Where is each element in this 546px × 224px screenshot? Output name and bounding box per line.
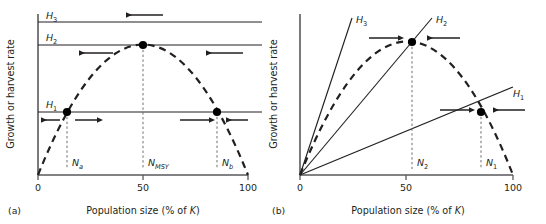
svg-text:3: 3 — [363, 20, 367, 28]
panel-b-h2-label: H 2 — [436, 14, 447, 28]
panel-b-h3-label: H 3 — [356, 14, 367, 28]
svg-text:1: 1 — [53, 105, 57, 113]
panel-b-equilibrium-dot-n1 — [477, 108, 485, 116]
panel-a-equilibrium-dot-nb — [213, 108, 221, 116]
svg-text:2: 2 — [443, 20, 447, 28]
panel-b-ticklabel-100: 100 — [504, 182, 522, 193]
svg-text:b: b — [229, 163, 233, 171]
panel-a-label-nb: N b — [222, 157, 233, 171]
panel-a-equilibrium-dot-na — [63, 108, 71, 116]
panel-b-h3-line — [300, 18, 352, 175]
panel-b-ticklabel-0: 0 — [297, 182, 303, 193]
svg-text:2: 2 — [53, 38, 57, 46]
panel-b: H 3 H 2 H 1 N 2 N 1 0 50 100 Growth or h… — [268, 14, 525, 216]
panel-a-ticklabel-50: 50 — [137, 182, 149, 193]
panel-b-x-axis-title: Population size (% of K) — [351, 205, 464, 216]
panel-b-label-n1: N 1 — [486, 157, 497, 171]
panel-a-h1-label: H 1 — [46, 99, 57, 113]
panel-a-h2-label: H 2 — [46, 32, 57, 46]
panel-b-equilibrium-dot-n2 — [408, 38, 416, 46]
svg-text:a: a — [79, 163, 83, 171]
panel-b-h1-label: H 1 — [513, 88, 524, 102]
panel-b-ticklabel-50: 50 — [400, 182, 412, 193]
panel-b-tag: (b) — [272, 205, 285, 216]
panel-a-equilibrium-dot-nmsy — [139, 41, 147, 49]
figure-container: H 3 H 2 H 1 N a N MSY N b 0 50 100 Growt… — [0, 0, 546, 224]
svg-text:1: 1 — [493, 163, 497, 171]
svg-text:MSY: MSY — [155, 163, 170, 171]
population-harvest-figure: H 3 H 2 H 1 N a N MSY N b 0 50 100 Growt… — [0, 0, 546, 224]
panel-b-y-axis-title: Growth or harvest rate — [268, 39, 279, 149]
panel-b-label-n2: N 2 — [417, 157, 428, 171]
panel-a-label-nmsy: N MSY — [148, 157, 170, 171]
panel-a-y-axis-title: Growth or harvest rate — [5, 39, 16, 149]
svg-text:2: 2 — [424, 163, 428, 171]
panel-a-x-axis-title: Population size (% of K) — [86, 205, 199, 216]
svg-text:3: 3 — [53, 16, 57, 24]
panel-a-tag: (a) — [8, 205, 21, 216]
panel-a-ticklabel-0: 0 — [35, 182, 41, 193]
panel-a-ticklabel-100: 100 — [239, 182, 257, 193]
panel-a-label-na: N a — [72, 157, 83, 171]
svg-text:1: 1 — [520, 94, 524, 102]
panel-a: H 3 H 2 H 1 N a N MSY N b 0 50 100 Growt… — [5, 10, 262, 216]
